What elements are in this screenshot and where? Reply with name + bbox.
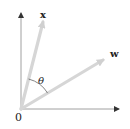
theta-label: θ (38, 75, 44, 86)
vector-x (21, 22, 43, 109)
vector-w (21, 60, 103, 109)
vector-x-label: x (40, 9, 47, 20)
vector-w-label: w (109, 48, 119, 59)
vector-angle-diagram: x w θ 0 (0, 0, 130, 129)
origin-label: 0 (15, 111, 22, 124)
